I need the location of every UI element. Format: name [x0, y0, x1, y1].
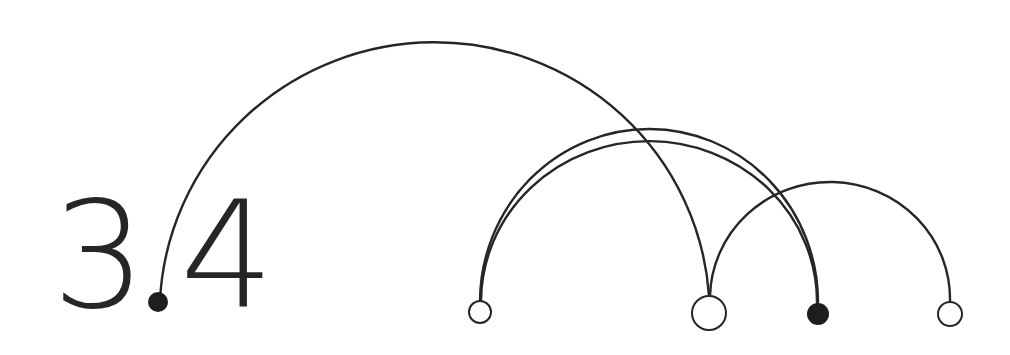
node-open-large [692, 296, 726, 330]
arc-n1-to-n3-inner [481, 141, 817, 303]
node-open-small-2 [938, 302, 962, 326]
arc-diagram: 3 4 [0, 0, 1010, 355]
node-open-small-1 [469, 301, 491, 323]
arc-n2-to-n4 [710, 182, 950, 302]
label-digit-3: 3 [52, 170, 146, 342]
decimal-dot-node [148, 292, 168, 312]
node-filled [807, 303, 829, 325]
label-digit-4: 4 [180, 170, 274, 342]
arc-n1-to-n3-outer [480, 129, 818, 303]
